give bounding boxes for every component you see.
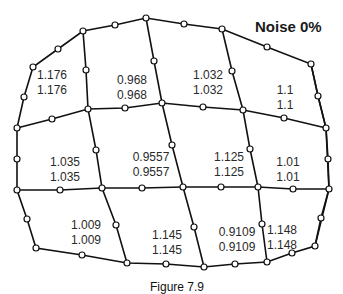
cell-value-top: 1.145 — [152, 228, 182, 243]
cell-value-bottom: 1.125 — [214, 165, 244, 180]
mesh-node — [30, 64, 36, 70]
mesh-node — [122, 105, 128, 111]
cell-value-top: 0.9557 — [133, 150, 170, 165]
mesh-node — [191, 224, 197, 230]
cell-value-label: 0.91090.9109 — [219, 225, 256, 255]
mesh-node — [139, 185, 145, 191]
cell-value-top: 1.009 — [71, 218, 101, 233]
mesh-node — [312, 243, 318, 249]
mesh-node — [264, 259, 270, 265]
cell-value-bottom: 1.035 — [50, 170, 80, 185]
mesh-node — [315, 93, 321, 99]
mesh-node — [80, 28, 86, 34]
mesh-line — [17, 187, 329, 190]
mesh-node — [326, 186, 332, 192]
mesh-node — [200, 104, 206, 110]
cell-value-label: 1.1481.148 — [267, 223, 297, 253]
mesh-node — [229, 68, 235, 74]
mesh-node — [14, 156, 20, 162]
mesh-node — [201, 264, 207, 270]
mesh-node — [93, 147, 99, 153]
mesh-node — [325, 156, 331, 162]
mesh-node — [281, 115, 287, 121]
cell-value-bottom: 1.01 — [276, 170, 299, 185]
mesh-node — [21, 94, 27, 100]
mesh-node — [240, 107, 246, 113]
cell-value-top: 1.125 — [214, 150, 244, 165]
cell-value-top: 1.176 — [37, 68, 67, 83]
cell-value-top: 1.148 — [267, 223, 297, 238]
figure-caption: Figure 7.9 — [150, 280, 204, 294]
cell-value-top: 1.032 — [193, 68, 223, 83]
cell-value-top: 1.035 — [50, 155, 80, 170]
mesh-node — [24, 216, 30, 222]
noise-title: Noise 0% — [255, 18, 322, 35]
mesh-node — [14, 125, 20, 131]
mesh-node — [180, 184, 186, 190]
cell-value-bottom: 1.176 — [37, 83, 67, 98]
mesh-node — [163, 261, 169, 267]
cell-value-label: 1.11.1 — [277, 83, 294, 113]
cell-value-label: 1.0351.035 — [50, 155, 80, 185]
mesh-node — [99, 185, 105, 191]
cell-value-bottom: 1.032 — [193, 83, 223, 98]
mesh-node — [259, 221, 265, 227]
cell-value-bottom: 1.009 — [71, 233, 101, 248]
mesh-node — [247, 146, 253, 152]
mesh-node — [308, 61, 314, 67]
mesh-node — [290, 186, 296, 192]
cell-value-bottom: 0.9109 — [219, 240, 256, 255]
cell-value-bottom: 1.145 — [152, 243, 182, 258]
mesh-node — [255, 184, 261, 190]
mesh-node — [218, 184, 224, 190]
cell-value-label: 1.0321.032 — [193, 68, 223, 98]
mesh-node — [219, 26, 225, 32]
cell-value-label: 0.9680.968 — [117, 73, 147, 103]
cell-value-top: 0.968 — [117, 73, 147, 88]
mesh-node — [112, 22, 118, 28]
mesh-node — [79, 252, 85, 258]
cell-value-label: 1.1451.145 — [152, 228, 182, 258]
mesh-node — [181, 21, 187, 27]
cell-value-bottom: 1.148 — [267, 238, 297, 253]
mesh-node — [124, 260, 130, 266]
cell-value-bottom: 0.968 — [117, 88, 147, 103]
mesh-node — [264, 44, 270, 50]
cell-value-label: 1.0091.009 — [71, 218, 101, 248]
mesh-node — [55, 46, 61, 52]
mesh-node — [159, 100, 165, 106]
mesh-node — [85, 106, 91, 112]
cell-value-top: 1.1 — [277, 83, 294, 98]
mesh-node — [113, 222, 119, 228]
mesh-node — [232, 261, 238, 267]
mesh-node — [33, 245, 39, 251]
mesh-node — [169, 142, 175, 148]
mesh-node — [151, 58, 157, 64]
mesh-node — [143, 15, 149, 21]
cell-value-label: 1.011.01 — [276, 155, 299, 185]
cell-value-bottom: 0.9557 — [133, 165, 170, 180]
cell-value-label: 0.95570.9557 — [133, 150, 170, 180]
cell-value-top: 0.9109 — [219, 225, 256, 240]
cell-value-label: 1.1761.176 — [37, 68, 67, 98]
cell-value-top: 1.01 — [276, 155, 299, 170]
mesh-node — [49, 116, 55, 122]
cell-value-label: 1.1251.125 — [214, 150, 244, 180]
cell-value-bottom: 1.1 — [277, 98, 294, 113]
mesh-node — [83, 67, 89, 73]
mesh-node — [14, 187, 20, 193]
mesh-node — [318, 215, 324, 221]
mesh-node — [323, 125, 329, 131]
mesh-node — [57, 187, 63, 193]
